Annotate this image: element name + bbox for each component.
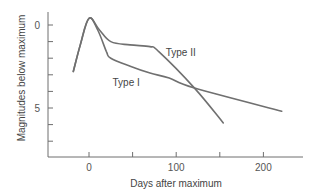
type-i-curve (73, 18, 281, 111)
x-tick-label: 200 (255, 162, 272, 173)
x-tick-label: 0 (86, 162, 92, 173)
axes (48, 12, 303, 157)
type-ii-curve (73, 18, 223, 123)
x-axis-label: Days after maximum (130, 178, 222, 189)
y-axis-label: Magnitudes below maximum (16, 15, 27, 142)
x-tick-label: 100 (168, 162, 185, 173)
y-tick-label: 0 (34, 20, 40, 31)
type-i-label: Type I (113, 77, 140, 88)
x-ticks: 0100200 (86, 152, 272, 173)
supernova-light-curve-chart: 05 0100200 Type IType II Days after maxi… (0, 0, 318, 193)
y-ticks: 05 (34, 20, 53, 142)
series-labels: Type IType II (113, 47, 196, 89)
curves (73, 18, 281, 123)
type-ii-label: Type II (166, 47, 196, 58)
y-tick-label: 5 (34, 103, 40, 114)
